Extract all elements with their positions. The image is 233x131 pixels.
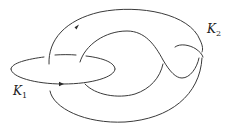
knot-k2 [49,9,203,122]
knot-k1 [11,55,115,87]
label-k1: K 1 [12,84,27,100]
k2-outer-top-arc [49,9,203,64]
link-diagram: K 1 K 2 [0,0,233,131]
k2-outer-bottom-arc [50,58,202,122]
k1-top-left-arc [11,57,44,69]
k1-top-right-arc [86,56,115,69]
k1-label-subscript: 1 [22,91,27,100]
k1-bottom-arc [11,69,115,84]
label-k2: K 2 [206,22,221,38]
k2-right-loop [175,45,203,57]
k2-inner-hump [80,31,199,78]
k2-label-subscript: 2 [216,29,221,38]
k2-arrow-icon [75,25,80,30]
k1-arrow-icon [59,82,64,86]
